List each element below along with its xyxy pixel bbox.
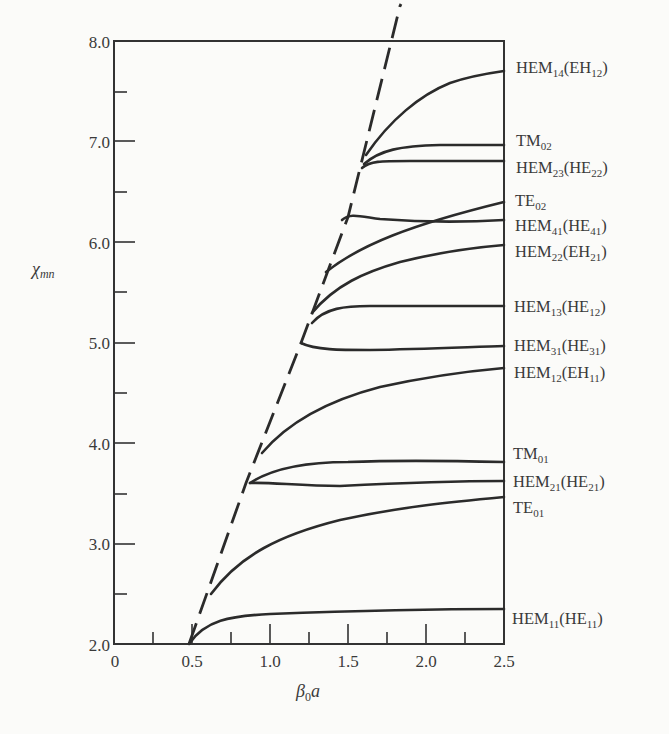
svg-text:3.0: 3.0 xyxy=(89,535,110,554)
curve-te02 xyxy=(326,202,504,272)
curve-hem13 xyxy=(312,306,504,323)
curve-hem21 xyxy=(250,481,504,486)
label-hem14: HEM14(EH12) xyxy=(516,60,608,79)
svg-text:1.5: 1.5 xyxy=(337,652,358,671)
curve-hem22 xyxy=(312,245,504,313)
curve-hem41 xyxy=(342,216,504,222)
curve-te01 xyxy=(211,497,504,594)
label-hem11: HEM11(HE11) xyxy=(512,611,603,630)
curve-tm01 xyxy=(250,461,504,483)
svg-text:2.0: 2.0 xyxy=(89,636,110,655)
y-axis-title: χmn xyxy=(30,259,55,281)
label-hem31: HEM31(HE31) xyxy=(514,338,606,357)
svg-text:2.5: 2.5 xyxy=(493,652,514,671)
label-hem12: HEM12(EH11) xyxy=(514,365,605,384)
label-hem41: HEM41(HE41) xyxy=(515,218,607,237)
svg-text:6.0: 6.0 xyxy=(89,234,110,253)
label-tm02: TM02 xyxy=(516,133,552,152)
x-tick-labels: 0 0.5 1.0 1.5 2.0 2.5 xyxy=(111,652,515,671)
x-axis-title: β0a xyxy=(295,681,320,704)
curve-hem23 xyxy=(362,161,504,168)
curve-hem12 xyxy=(262,368,504,453)
mode-curves xyxy=(189,71,504,644)
svg-text:7.0: 7.0 xyxy=(89,133,110,152)
cutoff-dashed-line xyxy=(189,4,401,644)
x-ticks xyxy=(153,624,465,644)
plot-frame xyxy=(114,41,504,644)
y-tick-labels: 8.0 7.0 6.0 5.0 4.0 3.0 2.0 xyxy=(89,33,110,655)
label-hem23: HEM23(HE22) xyxy=(516,160,608,179)
curve-hem11 xyxy=(189,609,504,644)
svg-text:8.0: 8.0 xyxy=(89,33,110,52)
label-te01: TE01 xyxy=(513,500,544,519)
label-hem21: HEM21(HE21) xyxy=(513,474,605,493)
svg-text:0: 0 xyxy=(111,652,120,671)
svg-text:4.0: 4.0 xyxy=(89,435,110,454)
svg-text:5.0: 5.0 xyxy=(89,334,110,353)
svg-text:2.0: 2.0 xyxy=(415,652,436,671)
curve-hem14 xyxy=(366,71,504,155)
svg-text:0.5: 0.5 xyxy=(181,652,202,671)
label-te02: TE02 xyxy=(515,193,546,212)
y-ticks xyxy=(114,92,135,594)
label-hem22: HEM22(EH21) xyxy=(515,244,607,263)
svg-text:1.0: 1.0 xyxy=(259,652,280,671)
label-hem13: HEM13(HE12) xyxy=(514,299,606,318)
label-tm01: TM01 xyxy=(513,446,549,465)
curve-hem31 xyxy=(301,343,504,350)
